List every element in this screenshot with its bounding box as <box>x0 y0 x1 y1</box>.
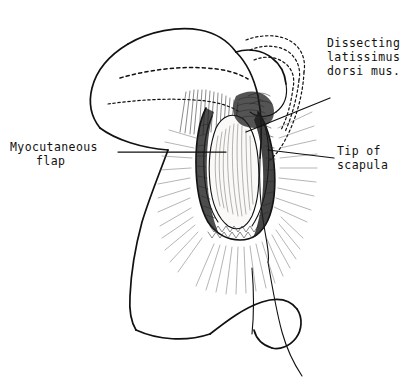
label-tip-line2: scapula <box>337 158 388 172</box>
label-dissecting-line2: latissimus <box>327 50 400 64</box>
leader-tip-of-scapula <box>268 150 334 158</box>
label-tip-line1: Tip of <box>337 144 381 158</box>
label-dissecting-latissimus-dorsi: Dissecting latissimus dorsi mus. <box>327 36 400 78</box>
label-myocutaneous-line1: Myocutaneous <box>10 140 98 154</box>
label-dissecting-line3: dorsi mus. <box>327 64 400 78</box>
label-myocutaneous-flap: Myocutaneousflap <box>10 140 98 168</box>
label-tip-of-scapula: Tip of scapula <box>337 144 388 172</box>
label-myocutaneous-line2: flap <box>10 154 98 168</box>
label-dissecting-line1: Dissecting <box>327 36 400 50</box>
